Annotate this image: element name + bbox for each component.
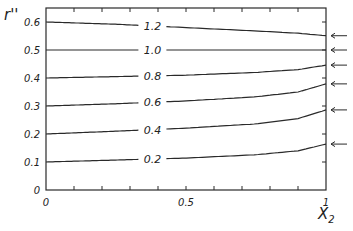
curve-0-6 <box>166 84 326 102</box>
x-axis-label-main: X <box>317 205 329 223</box>
curves <box>46 22 326 162</box>
curve-0-2 <box>46 159 138 162</box>
y-tick-label: 0.2 <box>24 129 40 140</box>
arrow-markers <box>331 33 347 146</box>
curve-labels: 1.21.00.80.60.40.2 <box>144 20 162 166</box>
y-tick-label: 0 <box>34 185 40 196</box>
curve-0-4 <box>166 110 326 129</box>
curve-0-8 <box>166 65 326 76</box>
curve-label: 0.8 <box>144 70 162 83</box>
y-tick-label: 0.4 <box>24 73 40 84</box>
curve-label: 0.6 <box>144 96 162 109</box>
plot-border <box>46 8 326 190</box>
y-axis-label: r'' <box>4 6 18 24</box>
curve-0-2 <box>166 144 326 159</box>
y-tick-label: 0.1 <box>24 157 40 168</box>
x-tick-label: 0.5 <box>178 197 194 208</box>
axis-ticks: 00.10.20.30.40.50.600.51 <box>24 8 329 208</box>
x-axis-label-subscript: 2 <box>328 214 334 225</box>
axis-text: r'' X2 <box>4 6 335 225</box>
y-tick-label: 0.3 <box>24 101 40 112</box>
curve-0-8 <box>46 76 138 78</box>
y-tick-label: 0.6 <box>24 17 40 28</box>
curve-label: 1.2 <box>144 20 162 33</box>
curve-label: 1.0 <box>144 44 162 57</box>
line-chart: 00.10.20.30.40.50.600.51 1.21.00.80.60.4… <box>0 0 353 231</box>
curve-1-2 <box>46 22 138 25</box>
curve-label: 0.2 <box>144 153 162 166</box>
curve-0-6 <box>46 103 138 106</box>
curve-1-2 <box>166 27 326 36</box>
curve-label: 0.4 <box>144 124 162 137</box>
x-tick-label: 0 <box>43 197 49 208</box>
y-tick-label: 0.5 <box>24 45 40 56</box>
plot-frame <box>46 8 326 190</box>
x-axis-label: X2 <box>317 205 335 225</box>
curve-0-4 <box>46 130 138 134</box>
